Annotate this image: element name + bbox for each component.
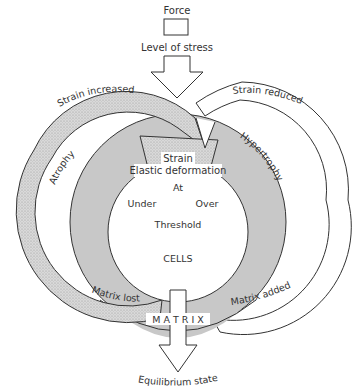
matrix-label: M A T R I X	[152, 314, 204, 325]
force-block: Force Level of stress	[141, 5, 213, 53]
equilibrium-state-label: Equilibrium state	[138, 372, 219, 388]
over-label: Over	[196, 198, 219, 209]
cells-label: CELLS	[163, 253, 192, 264]
at-label: At	[173, 182, 183, 193]
stress-label: Level of stress	[141, 42, 213, 53]
strain-label: Strain	[163, 153, 193, 164]
stress-strain-diagram: Force Level of stress Strain increased S…	[0, 0, 354, 392]
threshold-label: Threshold	[154, 219, 202, 230]
under-label: Under	[128, 198, 157, 209]
stress-arrow-icon	[151, 56, 203, 98]
elastic-deformation-label: Elastic deformation	[130, 165, 227, 176]
force-box	[164, 19, 188, 35]
force-label: Force	[163, 5, 190, 16]
